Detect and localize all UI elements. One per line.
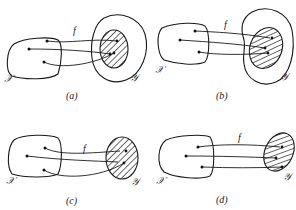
point bbox=[123, 162, 126, 165]
panel-b: f 𝒳 𝒴 (b) bbox=[155, 9, 293, 102]
point bbox=[28, 48, 31, 51]
function-label: f bbox=[73, 25, 77, 36]
mapping-line bbox=[29, 49, 110, 54]
point bbox=[281, 166, 284, 169]
point bbox=[185, 155, 188, 158]
image-region-codomain-y bbox=[258, 128, 296, 176]
point bbox=[116, 40, 119, 43]
function-label: f bbox=[238, 132, 242, 143]
codomain-label: 𝒴 bbox=[130, 72, 141, 83]
image-region-codomain-y bbox=[106, 137, 138, 179]
point bbox=[201, 166, 204, 169]
point bbox=[197, 146, 200, 149]
point bbox=[109, 53, 112, 56]
point bbox=[281, 146, 284, 149]
point bbox=[179, 39, 182, 42]
panel-caption: (c) bbox=[66, 195, 78, 207]
point bbox=[46, 40, 49, 43]
point bbox=[264, 47, 267, 50]
function-mapping-diagram: f 𝒳 𝒴 (a) f 𝒳 𝒴 (b) f 𝒳 � bbox=[0, 0, 296, 210]
codomain-label: 𝒴 bbox=[283, 171, 294, 182]
panel-a: f 𝒳 𝒴 (a) bbox=[4, 15, 146, 102]
point bbox=[43, 61, 46, 64]
domain-set-x bbox=[7, 38, 61, 79]
point bbox=[267, 52, 270, 55]
codomain-label: 𝒴 bbox=[280, 71, 291, 82]
codomain-label: 𝒴 bbox=[131, 176, 142, 187]
function-label: f bbox=[83, 143, 87, 154]
mapping-line bbox=[186, 156, 276, 158]
panel-caption: (a) bbox=[66, 90, 78, 102]
point bbox=[271, 37, 274, 40]
domain-label: 𝒳 bbox=[155, 64, 167, 75]
panel-c: f 𝒳 𝒴 (c) bbox=[6, 135, 142, 207]
point bbox=[43, 169, 46, 172]
function-label: f bbox=[224, 19, 228, 30]
mapping-line bbox=[202, 167, 282, 168]
panel-caption: (d) bbox=[216, 194, 228, 206]
domain-label: 𝒳 bbox=[4, 73, 16, 84]
mapping-line bbox=[27, 156, 118, 162]
point bbox=[194, 30, 197, 33]
point bbox=[275, 157, 278, 160]
panel-d: f 𝒳 𝒴 (d) bbox=[156, 128, 296, 206]
panel-caption: (b) bbox=[216, 90, 228, 102]
point bbox=[113, 52, 116, 55]
domain-set-x bbox=[8, 135, 61, 177]
domain-label: 𝒳 bbox=[6, 175, 18, 186]
domain-set-x bbox=[158, 23, 209, 64]
domain-label: 𝒳 bbox=[156, 175, 168, 186]
point bbox=[125, 150, 128, 153]
image-region bbox=[100, 30, 128, 68]
point bbox=[44, 147, 47, 150]
point bbox=[26, 155, 29, 158]
point bbox=[198, 51, 201, 54]
